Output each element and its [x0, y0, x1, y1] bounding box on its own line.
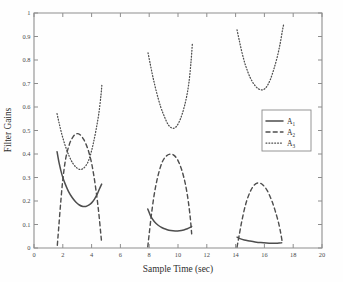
y-tick-label: 0.1	[23, 221, 31, 228]
x-tick-label: 20	[319, 251, 325, 258]
filter-gains-chart-figure: 0246810121416182000.10.20.30.40.50.60.70…	[0, 0, 343, 282]
x-tick-label: 8	[148, 251, 151, 258]
curve-a1	[148, 209, 192, 231]
x-tick-label: 16	[261, 251, 267, 258]
curve-a3	[57, 84, 102, 170]
x-tick-label: 2	[61, 251, 64, 258]
y-tick-label: 0.2	[23, 197, 31, 204]
curve-a3	[148, 43, 192, 128]
y-axis-label: Filter Gains	[3, 107, 13, 152]
x-tick-label: 12	[204, 251, 210, 258]
x-tick-label: 6	[119, 251, 122, 258]
legend-subscript-3: 3	[292, 143, 295, 149]
y-tick-label: 0.4	[23, 150, 32, 157]
y-tick-label: 1	[27, 9, 30, 16]
chart-legend[interactable]: A1A2A3	[262, 110, 311, 151]
x-tick-label: 0	[32, 251, 35, 258]
y-tick-label: 0.6	[23, 103, 31, 110]
y-tick-label: 0.8	[23, 56, 31, 63]
x-tick-label: 4	[90, 251, 94, 258]
curve-a2	[237, 183, 282, 247]
x-tick-label: 10	[175, 251, 181, 258]
x-tick-label: 14	[232, 251, 239, 258]
legend-subscript-1: 1	[292, 121, 295, 127]
y-tick-label: 0.7	[23, 80, 32, 87]
x-tick-label: 18	[290, 251, 296, 258]
legend-subscript-2: 2	[292, 132, 295, 138]
curve-a1	[237, 237, 282, 243]
y-tick-label: 0.3	[23, 174, 31, 181]
curve-a3	[237, 24, 284, 90]
y-tick-label: 0.5	[23, 127, 31, 134]
chart-canvas: 0246810121416182000.10.20.30.40.50.60.70…	[0, 0, 343, 282]
x-axis-label: Sample Time (sec)	[143, 264, 213, 275]
curve-a2	[57, 134, 101, 246]
y-tick-label: 0	[27, 244, 30, 251]
data-curves-group	[57, 24, 284, 247]
y-tick-label: 0.9	[23, 33, 31, 40]
curve-a2	[148, 154, 192, 247]
